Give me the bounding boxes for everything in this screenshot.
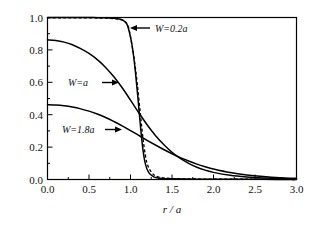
y-tick-label-4: 0.8	[29, 44, 43, 56]
annotation-w-a: W=a	[68, 77, 88, 88]
y-tick-label-1: 0.2	[29, 141, 43, 153]
x-tick-label-2: 1.0	[124, 183, 138, 195]
x-axis-title: r / a	[163, 203, 182, 215]
figure-container: 传输系数	[0, 0, 316, 225]
transmission-coefficient-chart: 0.0 0.5 1.0 1.5 2.0 2.5 3.0 0.0 0.2 0.4 …	[0, 0, 316, 225]
x-tick-label-6: 3.0	[290, 183, 304, 195]
annotation-w-0-2a: W=0.2a	[155, 23, 188, 34]
x-tick-label-4: 2.0	[207, 183, 221, 195]
y-tick-label-0: 0.0	[29, 174, 43, 186]
x-tick-label-3: 1.5	[165, 183, 179, 195]
y-tick-label-5: 1.0	[29, 12, 43, 24]
y-tick-label-2: 0.4	[29, 109, 43, 121]
annotation-w-1-8a: W=1.8a	[62, 124, 95, 135]
x-tick-label-5: 2.5	[248, 183, 262, 195]
x-tick-label-1: 0.5	[82, 183, 96, 195]
y-tick-label-3: 0.6	[29, 76, 43, 88]
